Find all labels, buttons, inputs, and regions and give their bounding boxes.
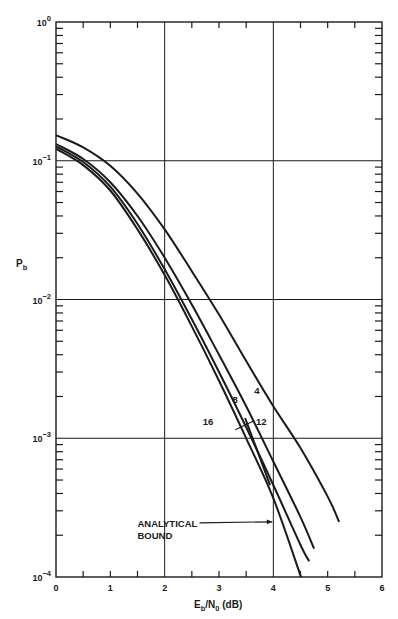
x-tick-label: 1 — [108, 583, 113, 593]
arrow-line — [200, 522, 273, 523]
x-axis-title: Eb/N0 (dB) — [194, 599, 242, 613]
curves — [56, 135, 339, 577]
x-tick-label: 3 — [216, 583, 221, 593]
y-tick-label: 10−2 — [32, 292, 51, 306]
curve-12 — [56, 146, 309, 561]
y-tick-label: 100 — [37, 14, 51, 28]
x-tick-label: 2 — [162, 583, 167, 593]
curve-label: 16 — [203, 416, 214, 427]
curve-annotations: 481216ANALYTICALBOUND — [138, 385, 273, 541]
y-tick-label: 10−4 — [32, 569, 51, 583]
y-tick-labels: 10010−110−210−310−4 — [32, 14, 51, 583]
y-axis-title: Pb — [16, 258, 28, 272]
x-tick-label: 5 — [325, 583, 330, 593]
ber-chart: 10010−110−210−310−4 0123456 481216ANALYT… — [0, 0, 398, 619]
curve-label: ANALYTICAL — [138, 518, 198, 529]
curve-label-line2: BOUND — [138, 530, 173, 541]
curve-label: 8 — [233, 394, 238, 405]
grid-lines — [56, 22, 382, 577]
x-tick-labels: 0123456 — [53, 583, 384, 593]
y-tick-label: 10−1 — [32, 153, 51, 167]
arrowhead-icon — [267, 520, 273, 525]
curve-label: 12 — [256, 416, 267, 427]
x-tick-label: 6 — [379, 583, 384, 593]
x-tick-label: 0 — [53, 583, 58, 593]
curve-16 — [56, 149, 301, 577]
y-tick-label: 10−3 — [32, 430, 51, 444]
x-tick-label: 4 — [271, 583, 276, 593]
curve-label: 4 — [254, 385, 260, 396]
